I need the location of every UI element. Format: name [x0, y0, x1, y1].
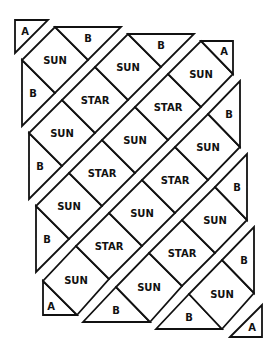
piece-label: SUN — [137, 282, 161, 293]
piece-label: SUN — [196, 142, 220, 153]
piece-label: A — [21, 26, 29, 37]
piece-label: SUN — [43, 55, 67, 66]
piece-label: B — [29, 88, 37, 99]
piece-label: SUN — [64, 275, 88, 286]
piece-label: B — [233, 182, 241, 193]
piece-label: SUN — [210, 289, 234, 300]
piece-label: SUN — [203, 215, 227, 226]
piece-label: B — [36, 161, 44, 172]
piece-label: STAR — [161, 175, 190, 186]
quilt-cutting-diagram: ABSUNBBSUNSTARSUNBBSUNSTARSUNSTARSUNAASU… — [0, 0, 271, 350]
piece-label: SUN — [130, 208, 154, 219]
piece-label: SUN — [123, 135, 147, 146]
piece-label: SUN — [50, 128, 74, 139]
pieces-layer: ABSUNBBSUNSTARSUNBBSUNSTARSUNSTARSUNAASU… — [15, 20, 262, 337]
piece-label: B — [225, 109, 233, 120]
piece-label: A — [248, 322, 256, 333]
piece-label: A — [47, 301, 55, 312]
piece-label: B — [112, 305, 120, 316]
piece-label: B — [157, 40, 165, 51]
piece-label: B — [43, 234, 51, 245]
piece-label: B — [240, 255, 248, 266]
piece-label: SUN — [116, 62, 140, 73]
piece-label: STAR — [81, 95, 110, 106]
piece-label: STAR — [88, 168, 117, 179]
piece-label: B — [84, 33, 92, 44]
piece-label: A — [220, 46, 228, 57]
piece-label: SUN — [57, 201, 81, 212]
piece-label: STAR — [154, 102, 183, 113]
piece-label: SUN — [189, 69, 213, 80]
piece-label: B — [185, 312, 193, 323]
piece-label: STAR — [168, 248, 197, 259]
piece-label: STAR — [95, 241, 124, 252]
